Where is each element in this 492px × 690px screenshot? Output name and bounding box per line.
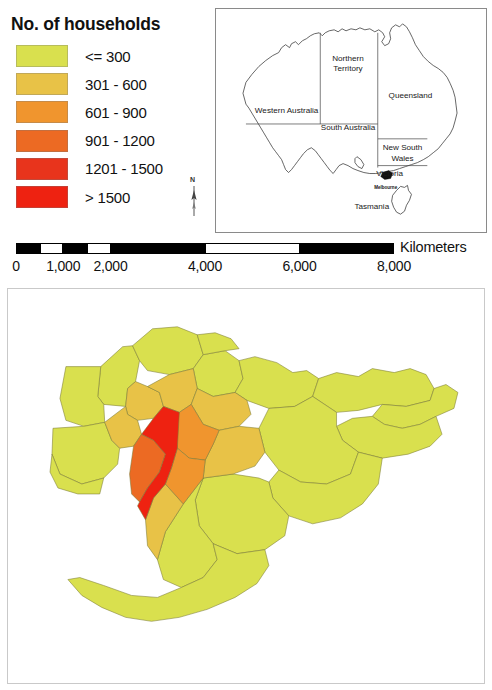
map-figure: No. of households <= 300301 - 600601 - 9…	[0, 0, 492, 690]
australia-inset-map: Northern Territory Queensland Western Au…	[215, 8, 487, 233]
map-legend: No. of households <= 300301 - 600601 - 9…	[8, 14, 208, 211]
scale-bar-segment	[40, 243, 64, 254]
scale-bar-tick-label: 2,000	[93, 258, 127, 274]
legend-class-list: <= 300301 - 600601 - 900901 - 12001201 -…	[8, 42, 208, 211]
scale-bar-segment	[63, 243, 87, 254]
scale-bar-segment	[300, 243, 395, 254]
state-label-western-australia: Western Australia	[255, 106, 319, 115]
scale-bar-segment	[111, 243, 206, 254]
state-label-south-australia: South Australia	[321, 123, 376, 132]
legend-item-label: 301 - 600	[85, 76, 147, 93]
scale-bar-segment	[205, 243, 300, 254]
state-label-northern-territory-line1: Northern	[332, 54, 364, 63]
scale-bar-tick-label: 4,000	[188, 258, 222, 274]
legend-color-swatch	[16, 186, 68, 208]
legend-item: <= 300	[8, 42, 208, 70]
legend-item: 601 - 900	[8, 98, 208, 126]
scale-bar-segment	[16, 243, 40, 254]
legend-color-swatch	[16, 101, 68, 123]
legend-title: No. of households	[11, 14, 208, 35]
scale-bar-units-label: Kilometers	[400, 239, 467, 255]
state-label-tasmania: Tasmania	[354, 202, 389, 211]
legend-color-swatch	[16, 73, 68, 95]
legend-color-swatch	[16, 130, 68, 152]
scale-bar-track	[16, 243, 394, 254]
scale-bar-tick-label: 6,000	[282, 258, 316, 274]
legend-item: > 1500	[8, 183, 208, 211]
scale-bar: Kilometers 01,0002,0004,0006,0008,000	[16, 243, 476, 277]
legend-item: 1201 - 1500	[8, 155, 208, 183]
legend-item: 301 - 600	[8, 70, 208, 98]
legend-item-label: > 1500	[85, 189, 130, 206]
scale-bar-tick-label: 8,000	[377, 258, 411, 274]
city-label-melbourne: Melbourne	[374, 185, 397, 190]
lga-polygon-layer	[50, 327, 458, 622]
state-label-queensland: Queensland	[389, 91, 433, 100]
lga-polygon	[60, 367, 105, 427]
north-arrow-label: N	[190, 176, 195, 183]
state-label-victoria: Victoria	[376, 169, 403, 178]
state-label-northern-territory-line2: Territory	[333, 64, 363, 73]
lga-polygon	[197, 333, 239, 355]
legend-color-swatch	[16, 158, 68, 180]
scale-bar-segment	[87, 243, 111, 254]
legend-item-label: 601 - 900	[85, 104, 147, 121]
legend-item-label: 1201 - 1500	[85, 160, 163, 177]
legend-item-label: <= 300	[85, 48, 131, 65]
state-label-new-south-wales-line1: New South	[383, 143, 423, 152]
legend-item-label: 901 - 1200	[85, 132, 155, 149]
north-arrow-icon: N	[183, 178, 205, 218]
lga-polygon	[133, 327, 204, 375]
melbourne-choropleth-map	[7, 288, 485, 684]
scale-bar-tick-label: 1,000	[46, 258, 80, 274]
state-label-new-south-wales-line2: Wales	[391, 154, 413, 163]
scale-bar-tick-label: 0	[12, 258, 20, 274]
legend-item: 901 - 1200	[8, 127, 208, 155]
legend-color-swatch	[16, 45, 68, 67]
